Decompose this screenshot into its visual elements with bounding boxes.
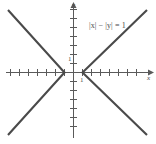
y-axis-label: y [72,2,75,9]
x-axis-label: x [147,75,150,82]
graph-figure: y x 1 1 |x| − |y| = 1 [0,0,156,144]
equation-annotation: |x| − |y| = 1 [89,22,126,30]
x-unit-tick-label: 1 [80,77,84,84]
y-unit-tick-label: 1 [68,56,72,63]
coordinate-plane [0,0,156,144]
